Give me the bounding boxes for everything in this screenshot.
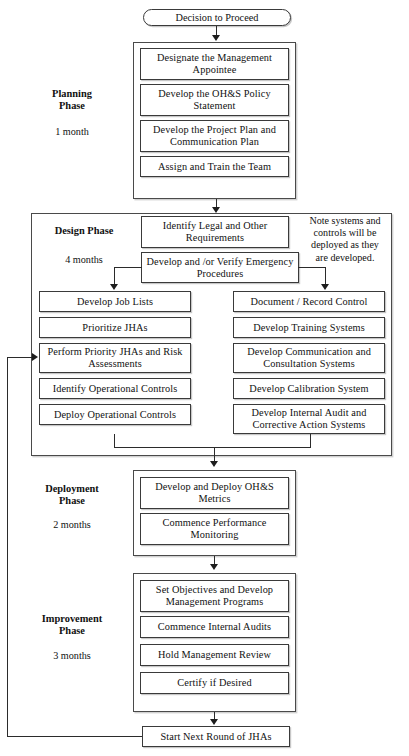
step-label: Develop Job Lists — [77, 296, 153, 308]
connector-merge-right-v — [310, 434, 311, 448]
phase-label-line1: Planning — [22, 88, 122, 100]
arrowhead-start-to-planning — [212, 35, 220, 41]
step-identify-operational-controls[interactable]: Identify Operational Controls — [39, 378, 191, 399]
arrowhead-branch-left — [110, 284, 118, 290]
step-commence-performance-monitoring[interactable]: Commence Performance Monitoring — [140, 513, 289, 545]
step-label: Certify if Desired — [177, 677, 251, 689]
phase-duration-deployment: 2 months — [22, 519, 122, 531]
design-phase-note: Note systems and controls will be deploy… — [299, 215, 391, 264]
node-decision-to-proceed[interactable]: Decision to Proceed — [143, 9, 291, 26]
phase-label-line1: Improvement — [22, 613, 122, 625]
step-develop-calibration-system[interactable]: Develop Calibration System — [233, 378, 385, 399]
node-start-next-round-of-jhas[interactable]: Start Next Round of JHAs — [142, 726, 290, 747]
step-prioritize-jhas[interactable]: Prioritize JHAs — [39, 317, 191, 338]
connector-feedback-v — [7, 357, 8, 737]
step-label: Develop the Project Plan and Communicati… — [143, 124, 286, 147]
node-label: Decision to Proceed — [176, 12, 259, 23]
step-identify-legal-requirements[interactable]: Identify Legal and Other Requirements — [141, 216, 289, 248]
phase-duration-improvement: 3 months — [22, 650, 122, 662]
step-develop-deploy-ohs-metrics[interactable]: Develop and Deploy OH&S Metrics — [140, 477, 289, 509]
node-label: Start Next Round of JHAs — [160, 731, 271, 743]
step-document-record-control[interactable]: Document / Record Control — [233, 291, 385, 312]
step-label: Develop and /or Verify Emergency Procedu… — [144, 256, 296, 279]
arrowhead-design-to-deployment — [210, 461, 218, 467]
step-label: Designate the Management Appointee — [143, 52, 286, 75]
step-label: Hold Management Review — [158, 649, 271, 661]
step-deploy-operational-controls[interactable]: Deploy Operational Controls — [39, 404, 191, 425]
connector-branch-right-h — [298, 267, 326, 268]
flowchart-canvas: Decision to Proceed Planning Phase 1 mon… — [0, 0, 409, 756]
note-line-3: deployed as they — [299, 239, 391, 251]
arrowhead-improvement-to-end — [210, 719, 218, 725]
arrowhead-branch-right — [321, 284, 329, 290]
step-label: Develop Communication and Consultation S… — [236, 346, 382, 369]
step-label: Document / Record Control — [250, 296, 367, 308]
connector-feedback-bottom-h — [7, 736, 142, 737]
step-develop-internal-audit-corrective[interactable]: Develop Internal Audit and Corrective Ac… — [233, 404, 385, 434]
step-designate-management-appointee[interactable]: Designate the Management Appointee — [140, 48, 289, 80]
step-label: Identify Operational Controls — [53, 383, 178, 395]
step-hold-management-review[interactable]: Hold Management Review — [140, 644, 289, 666]
step-label: Develop the OH&S Policy Statement — [143, 88, 286, 111]
arrowhead-deployment-to-improvement — [210, 564, 218, 570]
step-label: Commence Performance Monitoring — [143, 517, 286, 540]
connector-merge-h — [114, 447, 311, 448]
note-line-4: are developed. — [299, 252, 391, 264]
connector-merge-left-v — [114, 434, 115, 448]
step-certify-if-desired[interactable]: Certify if Desired — [140, 672, 289, 694]
step-label: Develop Calibration System — [249, 383, 368, 395]
step-label: Perform Priority JHAs and Risk Assessmen… — [42, 346, 188, 369]
note-line-2: controls will be — [299, 227, 391, 239]
step-label: Develop Internal Audit and Corrective Ac… — [236, 407, 382, 430]
step-label: Deploy Operational Controls — [54, 409, 176, 421]
step-label: Assign and Train the Team — [158, 161, 271, 173]
phase-duration-planning: 1 month — [22, 126, 122, 138]
step-develop-ohs-policy-statement[interactable]: Develop the OH&S Policy Statement — [140, 84, 289, 116]
step-develop-communication-consultation[interactable]: Develop Communication and Consultation S… — [233, 343, 385, 373]
phase-label-line1: Deployment — [22, 483, 122, 495]
phase-label-design: Design Phase — [34, 225, 134, 237]
step-develop-training-systems[interactable]: Develop Training Systems — [233, 317, 385, 338]
phase-duration-design: 4 months — [34, 254, 134, 266]
step-develop-verify-emergency-procedures[interactable]: Develop and /or Verify Emergency Procedu… — [141, 252, 299, 283]
step-commence-internal-audits[interactable]: Commence Internal Audits — [140, 616, 289, 638]
step-label: Prioritize JHAs — [82, 322, 147, 334]
connector-feedback-top-h — [7, 357, 33, 358]
phase-label-line1: Design Phase — [34, 225, 134, 237]
step-set-objectives-develop-programs[interactable]: Set Objectives and Develop Management Pr… — [140, 580, 289, 612]
step-label: Identify Legal and Other Requirements — [144, 220, 286, 243]
step-label: Develop Training Systems — [253, 322, 365, 334]
note-line-1: Note systems and — [299, 215, 391, 227]
phase-label-line2: Phase — [22, 625, 122, 637]
arrowhead-feedback-to-perform-jhas — [32, 353, 38, 361]
phase-label-line2: Phase — [22, 495, 122, 507]
step-label: Set Objectives and Develop Management Pr… — [143, 584, 286, 607]
step-develop-job-lists[interactable]: Develop Job Lists — [39, 291, 191, 312]
phase-label-line2: Phase — [22, 100, 122, 112]
step-develop-project-plan[interactable]: Develop the Project Plan and Communicati… — [140, 120, 289, 152]
connector-branch-left-h — [114, 267, 142, 268]
step-assign-and-train-team[interactable]: Assign and Train the Team — [140, 156, 289, 177]
phase-label-deployment: Deployment Phase — [22, 483, 122, 507]
step-label: Develop and Deploy OH&S Metrics — [143, 481, 286, 504]
phase-label-improvement: Improvement Phase — [22, 613, 122, 637]
phase-label-planning: Planning Phase — [22, 88, 122, 112]
step-label: Commence Internal Audits — [158, 621, 271, 633]
step-perform-priority-jhas[interactable]: Perform Priority JHAs and Risk Assessmen… — [39, 343, 191, 373]
